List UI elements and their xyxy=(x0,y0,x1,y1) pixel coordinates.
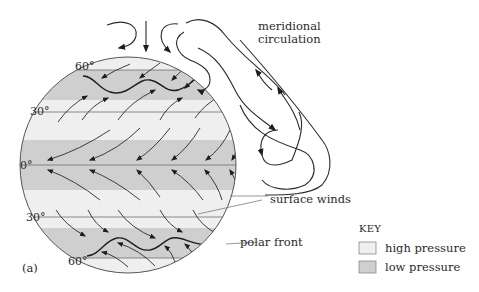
legend: KEY high pressure low pressure xyxy=(359,223,466,274)
legend-title: KEY xyxy=(359,223,381,234)
lat-label-s30: 30° xyxy=(26,211,46,224)
legend-label-low-pressure: low pressure xyxy=(385,260,460,274)
lat-label-s60: 60° xyxy=(68,255,88,268)
lat-label-eq: 0° xyxy=(20,159,33,172)
band-north-subpolar-low xyxy=(20,70,240,100)
legend-swatch-high-pressure xyxy=(359,242,376,254)
circulation-diagram: 60° 30° 0° 30° 60° (a) meridional circul… xyxy=(0,0,479,292)
lat-label-n30: 30° xyxy=(30,105,50,118)
meridional-circulation-label-line2: circulation xyxy=(258,32,321,46)
band-south-polar-high xyxy=(20,258,240,278)
polar-front-label: polar front xyxy=(240,235,303,249)
meridional-circulation-label-line1: meridional xyxy=(258,19,321,33)
panel-label: (a) xyxy=(22,261,38,275)
globe xyxy=(20,50,240,278)
legend-swatch-low-pressure xyxy=(359,261,376,273)
lat-label-n60: 60° xyxy=(75,60,95,73)
band-south-subtropical-high xyxy=(20,190,240,228)
surface-winds-label: surface winds xyxy=(270,192,351,206)
legend-label-high-pressure: high pressure xyxy=(385,241,466,255)
